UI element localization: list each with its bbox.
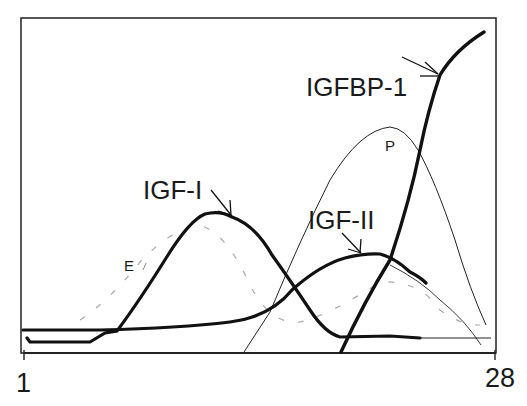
label-igfbp1: IGFBP-1: [306, 74, 407, 100]
chart-canvas: [0, 0, 527, 406]
x-tick-label-start: 1: [16, 370, 31, 397]
label-igf2: IGF-II: [308, 207, 374, 233]
igf2-arrow: [342, 233, 361, 253]
e-tick-mark: [143, 263, 146, 270]
x-tick-label-end: 28: [485, 365, 515, 392]
series-e-curve: [80, 225, 480, 325]
igfbp1-arrow: [402, 57, 438, 76]
label-p: P: [385, 138, 395, 153]
series-igf2-curve: [23, 254, 426, 330]
label-igf1: IGF-I: [143, 177, 202, 203]
label-e: E: [124, 258, 134, 273]
